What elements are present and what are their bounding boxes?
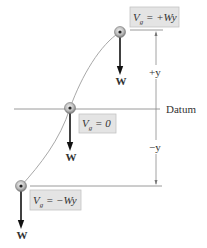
bottom-particle-center <box>19 184 22 187</box>
top-position: Vg = +Wy W <box>115 7 180 87</box>
dimension-arrow-up-icon <box>155 31 158 36</box>
middle-weight-arrowhead-icon <box>67 142 73 151</box>
gravitational-potential-energy-diagram: Datum +y −y Vg = +Wy W Vg = 0 W Vg = −Wy <box>0 0 207 248</box>
top-weight-label: W <box>116 75 127 87</box>
minus-y-label: −y <box>149 141 161 153</box>
top-particle-center <box>118 30 121 33</box>
middle-weight-label: W <box>66 151 77 163</box>
middle-position: Vg = 0 W <box>65 103 117 164</box>
bottom-position: Vg = −Wy W <box>16 181 82 242</box>
middle-particle-center <box>68 106 71 109</box>
plus-y-label: +y <box>149 66 161 78</box>
datum-label: Datum <box>166 103 196 115</box>
dimension-arrow-down-icon <box>155 180 158 185</box>
bottom-weight-arrowhead-icon <box>18 220 24 229</box>
bottom-weight-label: W <box>17 229 28 241</box>
top-weight-arrowhead-icon <box>117 66 123 75</box>
